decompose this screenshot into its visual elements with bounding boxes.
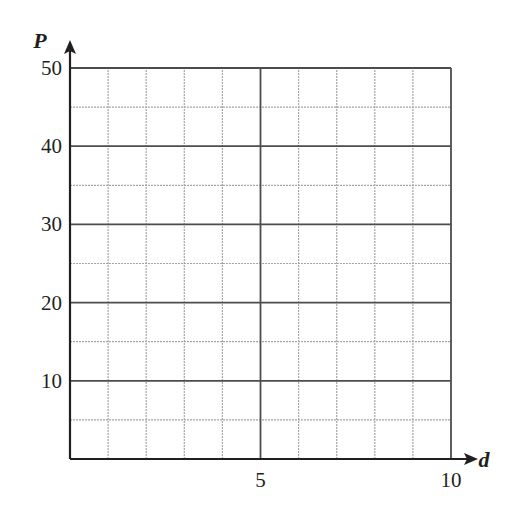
- x-tick-label: 10: [441, 468, 462, 492]
- y-tick-labels: 1020304050: [41, 56, 62, 393]
- y-tick-label: 10: [41, 369, 62, 393]
- y-tick-label: 20: [41, 291, 62, 315]
- x-axis-label: d: [479, 447, 491, 472]
- y-axis-label: P: [32, 28, 47, 53]
- y-tick-label: 40: [41, 134, 62, 158]
- y-tick-label: 30: [41, 212, 62, 236]
- y-tick-label: 50: [41, 56, 62, 80]
- axes: [64, 40, 478, 465]
- x-tick-labels: 510: [255, 468, 461, 492]
- chart-canvas: 1020304050 510 P d: [0, 0, 520, 512]
- x-tick-label: 5: [255, 468, 266, 492]
